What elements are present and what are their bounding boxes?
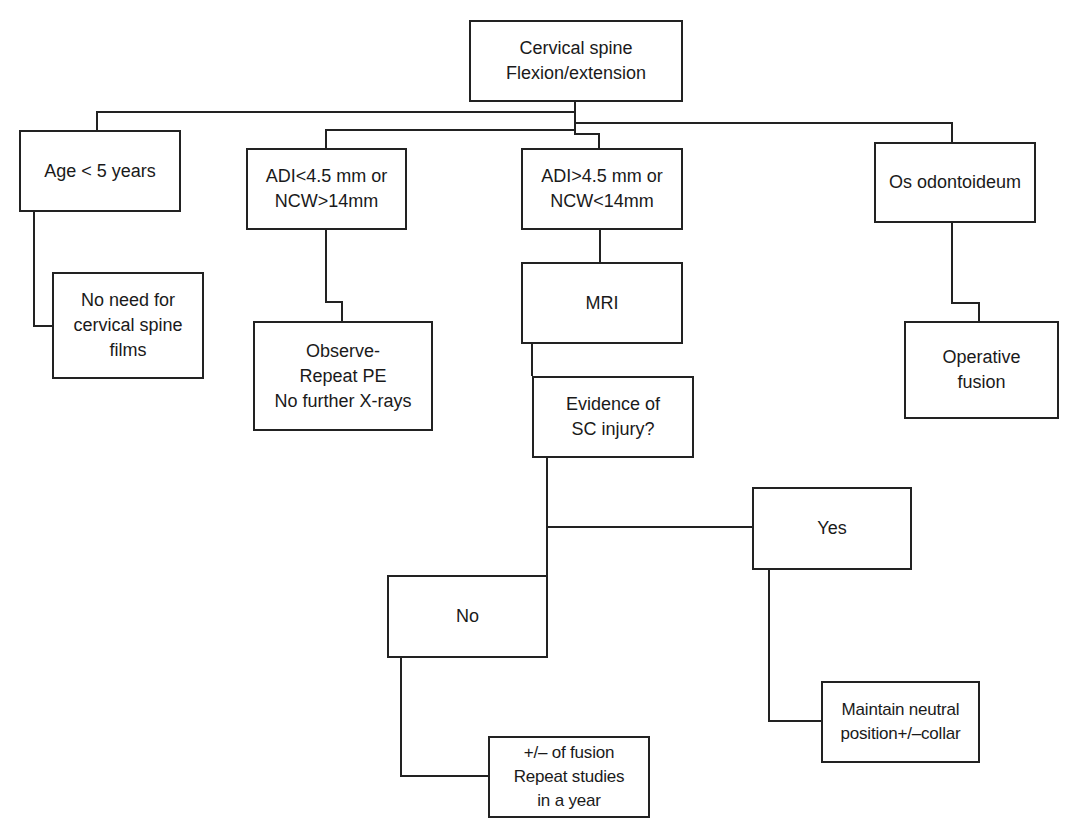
node-age-under-5: Age < 5 years	[19, 130, 181, 212]
node-label-line: cervical spine	[73, 313, 182, 338]
node-maintain-neutral-position: Maintain neutral position+/–collar	[821, 681, 980, 763]
edge-root-age	[97, 112, 575, 130]
edge-age-no-need	[34, 211, 52, 326]
node-label-line: ADI>4.5 mm or	[541, 164, 663, 189]
node-label-line: Operative	[942, 345, 1020, 370]
node-label-line: ADI<4.5 mm or	[266, 164, 388, 189]
node-observe-repeat-pe: Observe- Repeat PE No further X-rays	[253, 321, 433, 431]
node-label-line: Os odontoideum	[889, 170, 1021, 195]
node-label-line: films	[73, 338, 182, 363]
node-label-line: SC injury?	[566, 417, 660, 442]
node-label-line: position+/–collar	[841, 722, 961, 746]
node-label-line: MRI	[586, 291, 619, 316]
node-label-line: No need for	[73, 288, 182, 313]
node-operative-fusion: Operative fusion	[904, 321, 1059, 419]
edge-adi-low-observe	[326, 229, 342, 321]
node-label-line: Age < 5 years	[44, 159, 156, 184]
node-label-line: NCW>14mm	[266, 189, 388, 214]
node-label-line: Evidence of	[566, 392, 660, 417]
node-os-odontoideum: Os odontoideum	[874, 142, 1036, 223]
node-fusion-repeat-studies: +/– of fusion Repeat studies in a year	[488, 736, 650, 818]
node-label-line: Flexion/extension	[506, 61, 646, 86]
node-adi-less-than-4-5: ADI<4.5 mm or NCW>14mm	[246, 148, 407, 230]
node-label-line: fusion	[942, 370, 1020, 395]
edge-root-os	[575, 123, 952, 142]
node-label-line: Maintain neutral	[841, 698, 961, 722]
node-label-line: in a year	[514, 789, 625, 813]
node-no-need-for-films: No need for cervical spine films	[52, 272, 204, 379]
node-adi-greater-than-4-5: ADI>4.5 mm or NCW<14mm	[521, 148, 683, 230]
edge-root-adi-high	[575, 129, 599, 148]
node-no: No	[387, 575, 548, 658]
node-label-line: +/– of fusion	[514, 741, 625, 765]
node-label-line: No further X-rays	[274, 389, 411, 414]
edge-os-operative	[952, 222, 979, 321]
node-label-line: Repeat studies	[514, 765, 625, 789]
node-cervical-spine-flexion-extension: Cervical spine Flexion/extension	[469, 20, 683, 102]
edge-yes-maintain	[769, 569, 821, 721]
edge-root-adi-low	[326, 130, 575, 148]
node-yes: Yes	[752, 487, 912, 570]
node-mri: MRI	[521, 262, 683, 344]
node-label-line: Yes	[817, 516, 846, 541]
node-label-line: NCW<14mm	[541, 189, 663, 214]
node-label-line: Cervical spine	[506, 36, 646, 61]
edge-no-fusion-rep	[401, 657, 488, 776]
node-label-line: Observe-	[274, 339, 411, 364]
node-label-line: Repeat PE	[274, 364, 411, 389]
node-label-line: No	[456, 604, 479, 629]
node-evidence-of-sc-injury: Evidence of SC injury?	[532, 376, 694, 458]
